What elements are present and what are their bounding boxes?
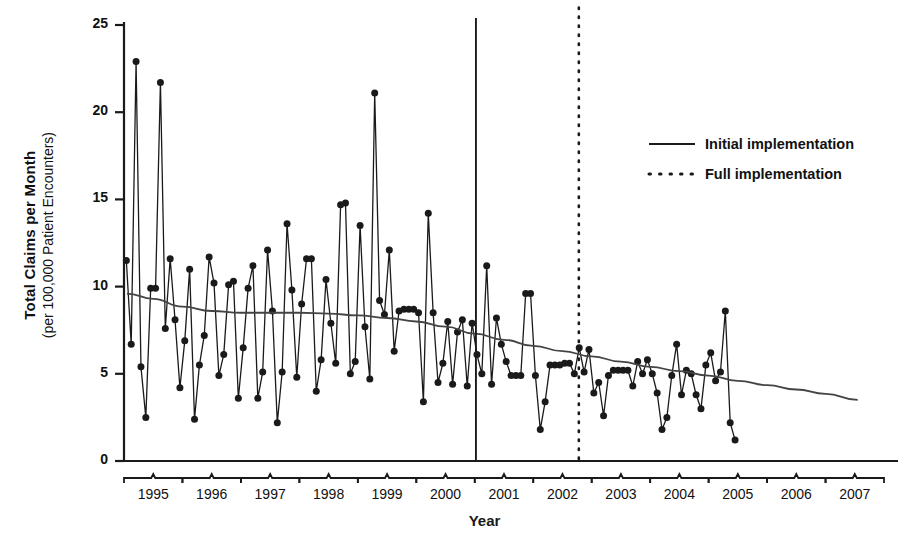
data-point [644,356,651,363]
data-point [366,376,373,383]
x-tick-label-2006: 2006 [767,486,825,502]
data-point [605,372,612,379]
data-point [668,372,675,379]
data-point [172,316,179,323]
axes-group [115,22,898,461]
year-bracket-1999 [358,474,416,483]
data-point [639,370,646,377]
annotations-group [476,8,579,461]
data-point [712,377,719,384]
chart-container: Total Claims per Month (per 100,000 Pati… [0,0,909,556]
year-bracket-1996 [182,474,240,483]
y-tick-label-25: 25 [72,15,108,31]
data-point [571,370,578,377]
x-tick-label-2002: 2002 [533,486,591,502]
data-point [532,372,539,379]
data-point [157,79,164,86]
data-point [133,58,140,65]
data-point [137,363,144,370]
data-point [206,253,213,260]
y-tick-label-15: 15 [72,189,108,205]
data-point [211,280,218,287]
year-bracket-1995 [124,474,182,483]
data-point [323,276,330,283]
data-point [215,372,222,379]
data-point [142,414,149,421]
data-point [542,398,549,405]
data-point [707,349,714,356]
data-point [493,314,500,321]
data-point [663,414,670,421]
data-point [249,262,256,269]
data-point [590,389,597,396]
data-point [649,370,656,377]
data-point [279,369,286,376]
chart-plot-area [0,0,909,556]
year-bracket-2004 [650,474,708,483]
x-tick-label-1996: 1996 [183,486,241,502]
data-point [293,374,300,381]
data-point [702,362,709,369]
data-point [191,416,198,423]
data-point [196,362,203,369]
x-axis-title-wrap: Year [0,512,909,529]
data-point [693,391,700,398]
data-point [298,301,305,308]
year-bracket-2007 [826,474,884,483]
y-tick-label-10: 10 [72,277,108,293]
data-point [435,379,442,386]
data-point [654,389,661,396]
y-tick-label-0: 0 [72,451,108,467]
data-point [727,419,734,426]
data-point [673,341,680,348]
legend-label-initial: Initial implementation [705,136,854,152]
data-point [152,285,159,292]
data-point [220,351,227,358]
data-point [537,426,544,433]
data-point [123,257,130,264]
year-bracket-1998 [299,474,357,483]
year-bracket-1997 [241,474,299,483]
data-point [201,332,208,339]
data-point [357,222,364,229]
year-bracket-2001 [475,474,533,483]
x-tick-label-2003: 2003 [592,486,650,502]
data-point [176,384,183,391]
x-axis-year-brackets [124,474,884,483]
y-tick-label-5: 5 [72,364,108,380]
data-point [376,297,383,304]
data-point [347,370,354,377]
data-series-group [123,58,858,443]
data-point [517,372,524,379]
data-point [420,398,427,405]
data-point [717,369,724,376]
data-point [473,351,480,358]
data-point [444,318,451,325]
x-tick-label-1999: 1999 [358,486,416,502]
data-point [595,379,602,386]
data-point [264,246,271,253]
year-bracket-2006 [767,474,825,483]
year-bracket-2000 [416,474,474,483]
x-tick-label-2001: 2001 [475,486,533,502]
data-point [318,356,325,363]
series-line-claims [126,62,735,440]
data-point [274,419,281,426]
x-tick-label-2007: 2007 [826,486,884,502]
data-point [371,90,378,97]
data-point [581,369,588,376]
data-point [449,381,456,388]
data-point [629,383,636,390]
data-point [332,360,339,367]
data-point [352,358,359,365]
data-point [732,437,739,444]
data-point [527,290,534,297]
data-point [288,287,295,294]
x-tick-label-2004: 2004 [650,486,708,502]
data-point [415,309,422,316]
data-point [386,246,393,253]
y-tick-label-20: 20 [72,102,108,118]
data-point [585,346,592,353]
data-point [342,199,349,206]
data-point [167,255,174,262]
